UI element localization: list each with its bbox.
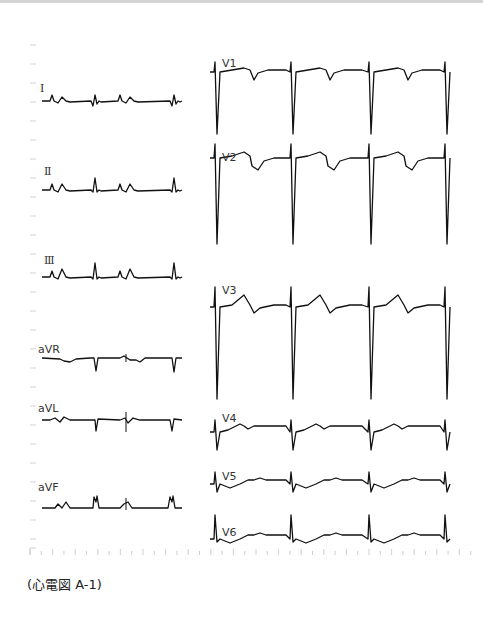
lead-label-V3: V3 (222, 285, 237, 296)
lead-label-I: Ⅰ (40, 83, 44, 94)
lead-label-V2: V2 (222, 152, 237, 163)
lead-label-V5: V5 (222, 471, 237, 482)
figure-caption: (心電図 A-1) (27, 574, 102, 593)
lead-label-aVF: aVF (38, 482, 59, 493)
lead-label-II: Ⅱ (44, 166, 51, 177)
lead-label-aVR: aVR (38, 344, 60, 355)
lead-label-V6: V6 (222, 527, 237, 538)
lead-label-V1: V1 (222, 58, 237, 69)
lead-label-V4: V4 (222, 413, 237, 424)
lead-label-III: Ⅲ (44, 255, 55, 266)
ecg-tracing (0, 0, 483, 618)
lead-label-aVL: aVL (38, 403, 58, 414)
